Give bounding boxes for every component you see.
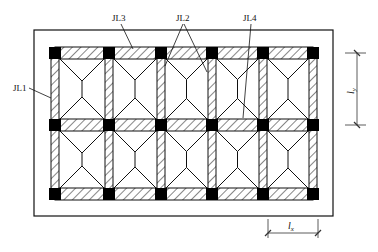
panel-yield-lines — [60, 131, 104, 188]
column-block — [103, 188, 115, 200]
leader-jl3 — [121, 24, 133, 49]
column-block — [49, 119, 61, 131]
column-block — [206, 119, 218, 131]
dimension-lx-label: lx — [288, 220, 295, 233]
column-block — [307, 188, 319, 200]
leader-lines — [29, 24, 251, 118]
beam-horizontal-2 — [55, 188, 313, 200]
panel-yield-lines — [166, 59, 207, 119]
column-block — [206, 47, 218, 59]
column-block — [49, 188, 61, 200]
panel-yield-lines — [217, 131, 258, 188]
leader-jl1 — [29, 88, 51, 98]
beam-horizontal-1 — [55, 119, 313, 131]
panel-yield-lines — [114, 59, 156, 119]
column-block — [307, 119, 319, 131]
foundation-plan-diagram: JL1 JL3 JL2 JL4 ly lx — [0, 0, 378, 252]
label-jl3: JL3 — [112, 13, 126, 23]
label-jl1: JL1 — [13, 83, 27, 93]
panel-yield-lines — [217, 59, 258, 119]
column-block — [155, 188, 167, 200]
leader-jl4 — [243, 24, 251, 118]
column-block — [103, 47, 115, 59]
column-block — [155, 47, 167, 59]
label-jl4: JL4 — [243, 13, 257, 23]
column-block — [257, 119, 269, 131]
panel-yield-lines — [114, 131, 156, 188]
panel-yield-lines — [166, 131, 207, 188]
column-block — [257, 47, 269, 59]
column-block — [206, 188, 218, 200]
column-block — [103, 119, 115, 131]
beam-horizontal-0 — [55, 47, 313, 59]
column-block — [155, 119, 167, 131]
dimension-ly-label: ly — [345, 87, 358, 94]
column-block — [307, 47, 319, 59]
panel-yield-lines — [268, 59, 308, 119]
panel-yield-lines — [60, 59, 104, 119]
foundation-beams — [51, 47, 317, 200]
panel-yield-lines — [268, 131, 308, 188]
column-block — [49, 47, 61, 59]
column-block — [257, 188, 269, 200]
label-jl2: JL2 — [176, 13, 190, 23]
